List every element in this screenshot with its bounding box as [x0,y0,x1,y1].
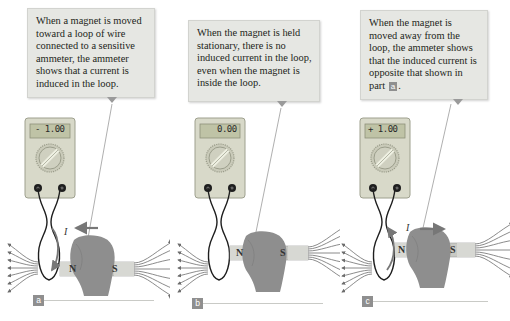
panel-divider-a [44,300,154,301]
panel-c: When the magnet is moved away from the l… [340,0,510,321]
diagram-a [0,0,170,321]
north-pole-b: N [236,247,243,258]
south-pole-c: S [450,244,456,255]
panel-label-c: c [362,296,373,307]
panel-label-b: b [192,298,203,309]
current-symbol-c: I [406,222,409,233]
panel-a: When a magnet is moved toward a loop of … [0,0,170,321]
north-pole-a: N [69,263,76,274]
ammeter-reading-b: 0.00 [217,124,237,134]
south-pole-b: S [280,247,286,258]
ammeter-reading-c: + 1.00 [368,124,398,134]
diagram-b [170,0,340,321]
ammeter-reading-a: - 1.00 [35,124,65,134]
current-symbol-a: I [64,226,67,237]
panel-label-a: a [33,295,44,306]
panel-divider-c [373,301,488,302]
south-pole-a: S [112,263,118,274]
diagram-c [340,0,510,321]
north-pole-c: N [398,244,405,255]
panel-b: When the magnet is held stationary, ther… [170,0,340,321]
panel-divider-b [203,303,323,304]
